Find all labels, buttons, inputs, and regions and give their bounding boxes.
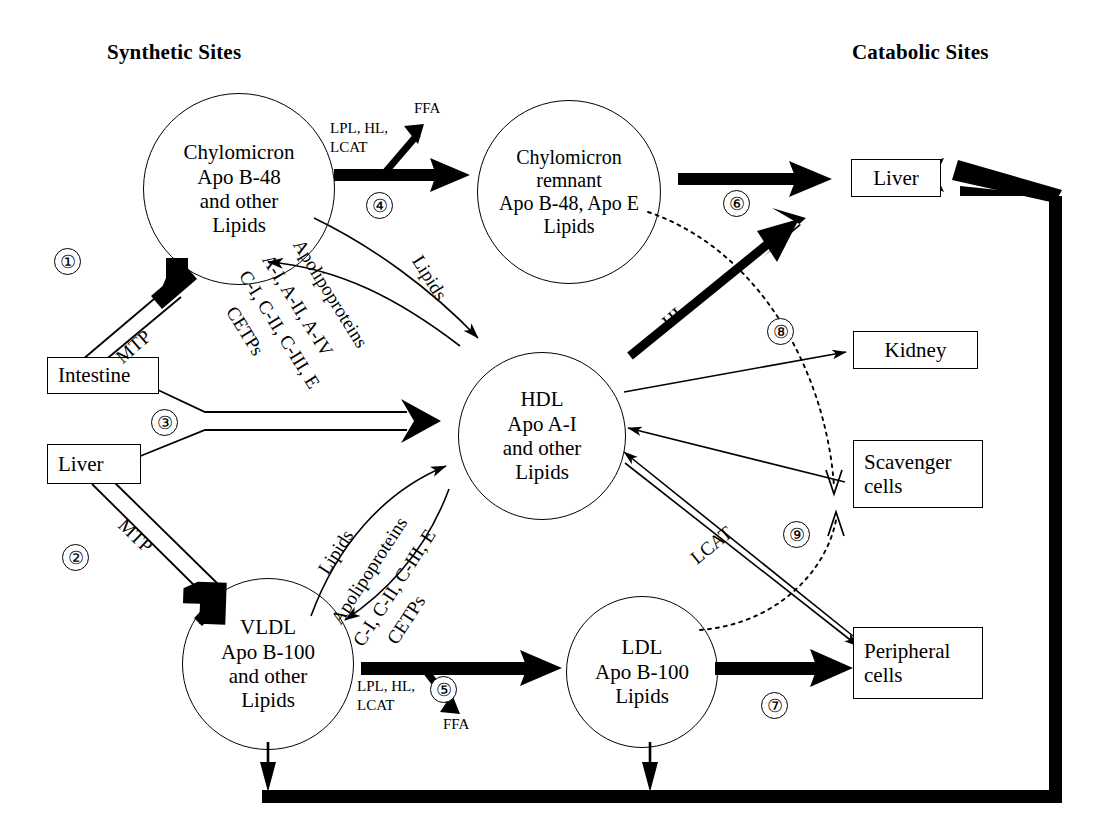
node-liver-right[interactable]: Liver	[851, 159, 941, 197]
node-ldl-line-2: Apo B-100	[595, 660, 689, 684]
label-ffa-bottom: FFA	[443, 716, 469, 733]
node-chylomicron-line-4: Lipids	[212, 213, 266, 237]
step-number-5: ⑤	[430, 676, 457, 703]
node-scavenger-line-2: cells	[864, 474, 902, 498]
step-number-3: ③	[151, 409, 178, 436]
node-hdl-line-1: HDL	[520, 387, 563, 411]
step-number-9: ⑨	[783, 521, 810, 548]
header-synthetic-sites: Synthetic Sites	[107, 40, 241, 65]
node-chylomicron-line-3: and other	[200, 189, 279, 213]
node-vldl-line-2: Apo B-100	[221, 640, 315, 664]
edge-dotted-receptor-arc	[648, 212, 844, 630]
step-number-8: ⑧	[767, 318, 794, 345]
node-peripheral-cells[interactable]: Peripheral cells	[853, 627, 983, 699]
edge-intestine-liver-to-hdl	[138, 390, 441, 457]
edge-scavenger-to-hdl	[628, 428, 845, 482]
label-enzymes-top-line-1: LPL, HL,	[330, 120, 388, 137]
label-enzymes-top-line-2: LCAT	[330, 139, 368, 156]
node-scavenger-line-1: Scavenger	[864, 450, 951, 474]
node-vldl-line-3: and other	[229, 664, 308, 688]
node-ldl-line-1: LDL	[622, 635, 663, 659]
node-vldl-line-4: Lipids	[241, 688, 295, 712]
diagram-canvas: Synthetic Sites Catabolic Sites Chylomic…	[0, 0, 1098, 832]
node-remnant-line-1: Chylomicron	[516, 146, 622, 169]
node-hdl[interactable]: HDL Apo A-I and other Lipids	[458, 352, 626, 520]
node-liver-left[interactable]: Liver	[47, 444, 141, 484]
node-intestine[interactable]: Intestine	[47, 357, 159, 394]
node-chylomicron-line-2: Apo B-48	[197, 165, 280, 189]
label-ffa-top: FFA	[414, 100, 440, 117]
node-peripheral-line-1: Peripheral	[864, 639, 950, 663]
node-peripheral-line-2: cells	[864, 663, 902, 687]
node-vldl[interactable]: VLDL Apo B-100 and other Lipids	[182, 578, 354, 750]
node-remnant-line-4: Lipids	[543, 215, 594, 238]
step-number-7: ⑦	[761, 692, 788, 719]
label-enzymes-bottom-line-2: LCAT	[357, 697, 395, 714]
node-ldl[interactable]: LDL Apo B-100 Lipids	[566, 596, 718, 748]
label-enzymes-bottom-line-1: LPL, HL,	[357, 678, 415, 695]
node-scavenger-cells[interactable]: Scavenger cells	[853, 440, 983, 508]
node-remnant-line-3: Apo B-48, Apo E	[499, 192, 639, 215]
node-kidney[interactable]: Kidney	[853, 331, 978, 369]
node-kidney-label: Kidney	[885, 338, 947, 362]
node-remnant-line-2: remnant	[536, 169, 602, 192]
node-hdl-line-4: Lipids	[515, 460, 569, 484]
node-liver-left-label: Liver	[58, 452, 103, 476]
node-hdl-line-3: and other	[503, 436, 582, 460]
step-number-6: ⑥	[723, 190, 750, 217]
edge-ldl-to-peripheral	[715, 649, 853, 687]
header-catabolic-sites: Catabolic Sites	[852, 40, 989, 65]
node-hdl-line-2: Apo A-I	[507, 412, 576, 436]
step-number-2: ②	[62, 544, 89, 571]
node-liver-right-label: Liver	[873, 166, 918, 190]
node-vldl-line-1: VLDL	[240, 615, 296, 639]
step-number-1: ①	[54, 248, 81, 275]
edge-remnant-to-liver	[678, 161, 832, 197]
node-chylomicron-remnant[interactable]: Chylomicron remnant Apo B-48, Apo E Lipi…	[477, 100, 661, 284]
node-chylomicron-line-1: Chylomicron	[184, 140, 295, 164]
node-intestine-label: Intestine	[58, 363, 130, 387]
step-number-4: ④	[366, 192, 393, 219]
node-ldl-line-3: Lipids	[615, 684, 669, 708]
